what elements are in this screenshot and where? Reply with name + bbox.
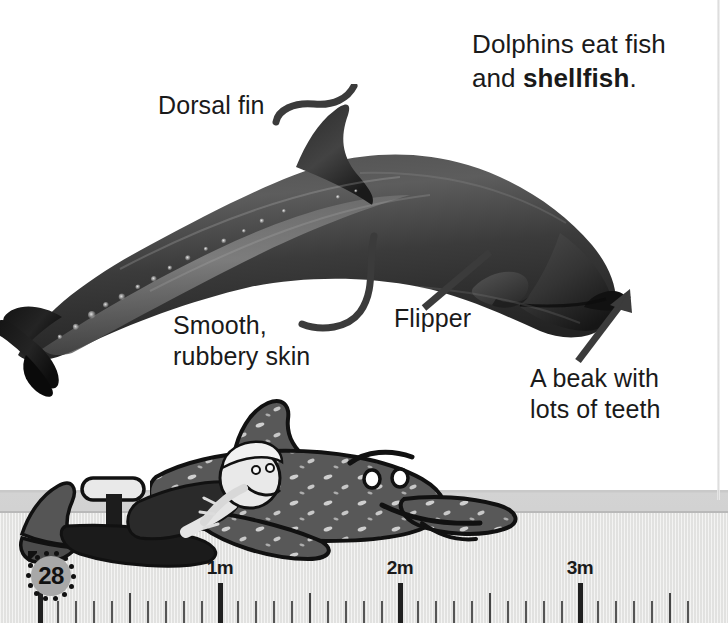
ruler-tick-major (578, 583, 583, 623)
page-number-ring-dot (35, 555, 40, 560)
ruler-tick-minor (291, 601, 293, 623)
ruler-tick-minor (57, 601, 59, 623)
ruler-label-1m: 1m (207, 557, 233, 579)
ruler-tick-minor (75, 601, 77, 623)
ruler-tick-minor (597, 601, 599, 623)
ruler-tick-minor (471, 601, 473, 623)
page-number-ring-dot (28, 583, 33, 588)
ruler-tick-mid (129, 593, 131, 623)
ruler-tick-minor (525, 601, 527, 623)
ruler-tick-mid (669, 593, 671, 623)
beak-pointer-arrow (570, 285, 640, 365)
ruler-tick-major (218, 583, 223, 623)
ruler-tick-minor (615, 601, 617, 623)
ruler-tick-minor (147, 601, 149, 623)
page-number-ring-dot (28, 563, 33, 568)
ruler-tick-minor (237, 601, 239, 623)
label-beak-with-teeth: A beak with lots of teeth (530, 363, 661, 425)
ruler-tick-minor (345, 601, 347, 623)
ruler-tick-minor (183, 601, 185, 623)
ruler-tick-minor (651, 601, 653, 623)
cartoon-dolphin-eye-right (392, 469, 408, 487)
page-edge-artifact (717, 0, 720, 500)
ruler-tick-mid (489, 593, 491, 623)
ruler-tick-minor (273, 601, 275, 623)
ruler-label-3m: 3m (567, 557, 593, 579)
page-number-ring-dot (26, 573, 31, 578)
label-flipper: Flipper (394, 303, 471, 334)
ruler-tick-minor (381, 601, 383, 623)
page-number-ring-dot (69, 584, 74, 589)
label-dorsal-fin: Dorsal fin (158, 90, 265, 121)
ruler-tick-minor (327, 601, 329, 623)
scale-ruler: 1m2m3m (0, 563, 728, 623)
ruler-tick-minor (453, 601, 455, 623)
book-page: Dolphins eat fishand shellfish. Dorsal f… (0, 0, 728, 623)
ruler-tick-minor (633, 601, 635, 623)
cartoon-dolphin-eye-left (364, 470, 380, 488)
dorsal-fin-pointer (272, 84, 362, 134)
fact-line-2-bold: shellfish (523, 63, 629, 93)
page-number-ring-dot (44, 551, 49, 556)
fact-line-2-suffix: . (629, 63, 636, 93)
ruler-tick-minor (363, 601, 365, 623)
page-number-badge: 28 (24, 549, 78, 603)
ruler-tick-minor (417, 601, 419, 623)
fact-callout: Dolphins eat fishand shellfish. (472, 27, 666, 95)
ruler-label-2m: 2m (387, 557, 413, 579)
ruler-tick-minor (561, 601, 563, 623)
ruler-tick-minor (111, 601, 113, 623)
ruler-tick-minor (507, 601, 509, 623)
ruler-tick-minor (165, 601, 167, 623)
page-number-ring-dot (34, 591, 39, 596)
ruler-tick-minor (687, 601, 689, 623)
fact-line-2-prefix: and (472, 63, 523, 93)
ruler-tick-minor (201, 601, 203, 623)
fact-line-1: Dolphins eat fish (472, 29, 666, 59)
ruler-tick-minor (435, 601, 437, 623)
ruler-tick-mid (309, 593, 311, 623)
page-number-ring-dot (43, 596, 48, 601)
diver-eye-left (252, 466, 260, 474)
page-number: 28 (24, 549, 78, 603)
ruler-tick-minor (543, 601, 545, 623)
ruler-tick-minor (255, 601, 257, 623)
ruler-tick-minor (93, 601, 95, 623)
ruler-tick-major (398, 583, 403, 623)
label-smooth-rubbery-skin: Smooth, rubbery skin (173, 310, 310, 372)
diver-eye-right (266, 464, 274, 472)
